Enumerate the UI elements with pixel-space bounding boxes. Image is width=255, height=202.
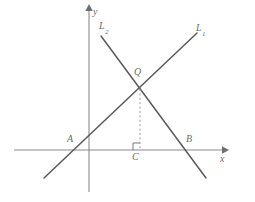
y-axis-arrowhead [85, 4, 92, 11]
line-label-L2-base: L [99, 20, 105, 31]
geometry-diagram: y x L2 L1 A B C Q [0, 0, 255, 202]
x-axis-label: x [220, 154, 224, 164]
point-label-A: A [67, 134, 73, 144]
line-L2 [101, 36, 206, 178]
line-label-L1: L1 [196, 23, 205, 36]
line-L1 [44, 33, 197, 178]
line-label-L1-subscript: 1 [202, 30, 206, 38]
point-label-Q: Q [134, 67, 141, 77]
point-label-C: C [132, 152, 139, 162]
diagram-canvas [0, 0, 255, 202]
right-angle-mark-at-C [133, 143, 140, 150]
line-label-L2: L2 [99, 21, 108, 34]
point-label-B: B [186, 134, 192, 144]
y-axis-label: y [93, 7, 97, 17]
line-label-L1-base: L [196, 22, 202, 33]
line-label-L2-subscript: 2 [105, 28, 109, 36]
